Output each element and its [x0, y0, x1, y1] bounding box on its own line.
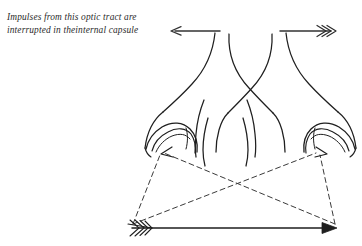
optic-tract-arrows: [171, 26, 336, 37]
sight-line-right-head-to-left-retina: [164, 153, 335, 224]
left-tract-inner-edge: [229, 34, 273, 113]
visual-pathway-figure: Impulses from this optic tract are inter…: [0, 0, 362, 246]
left-nerve-medial-edge: [273, 113, 285, 152]
object-arrow: [128, 220, 337, 236]
sight-line-right-head-to-right-retina: [320, 155, 335, 224]
left-retina-inner-arc: [152, 129, 195, 153]
left-retina-lateral-tip: [145, 148, 151, 157]
chiasm-right-inner-limb: [243, 118, 248, 166]
right-nerve-medial-edge: [216, 113, 228, 152]
sight-lines: [133, 153, 335, 224]
right-tract-inner-edge: [228, 34, 272, 113]
annotation-caption: Impulses from this optic tract are inter…: [7, 11, 187, 36]
right-tract-outer-edge: [286, 33, 338, 112]
right-retina-inner-arc: [306, 129, 349, 153]
right-retina-outer-arc: [304, 123, 355, 152]
right-retina-medial-fold: [314, 128, 316, 149]
left-tract-outer-edge: [163, 33, 215, 112]
optic-chiasm-and-nerves: [145, 33, 356, 166]
right-retina-lateral-tip: [350, 148, 356, 157]
left-retina-arrowhead-icon: [161, 147, 173, 157]
chiasm-left-inner-limb: [203, 118, 208, 166]
right-retina: [304, 123, 356, 157]
sight-line-left-tail-to-right-retina: [133, 153, 316, 224]
left-retina: [145, 123, 197, 157]
figure-canvas: [0, 0, 362, 246]
left-retina-medial-fold: [186, 128, 188, 149]
sight-line-left-tail-to-left-retina: [133, 155, 160, 224]
right-retina-arrowhead-icon: [315, 147, 327, 157]
